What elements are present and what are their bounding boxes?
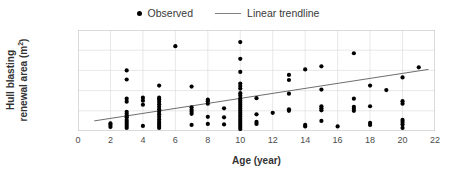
data-point [157,96,161,100]
data-point [222,106,226,110]
x-tick-label: 2 [95,135,125,145]
data-point [319,104,323,108]
data-point [319,87,323,91]
x-tick-label: 14 [290,135,320,145]
x-tick-label: 6 [160,135,190,145]
data-point [222,115,226,119]
x-axis-title: Age (year) [78,155,435,166]
legend-label-trendline: Linear trendline [247,8,319,19]
data-point [352,105,356,109]
data-point [189,84,193,88]
data-point [287,107,291,111]
legend-entry-observed: Observed [137,8,194,19]
chart-legend: Observed Linear trendline [0,4,456,22]
data-point [125,77,129,81]
y-axis-title: Hull blasting renewal area (m2) [0,25,70,135]
data-point [108,121,112,125]
data-point [254,96,258,100]
x-tick-label: 8 [193,135,223,145]
data-point [287,78,291,82]
data-point [206,122,210,126]
data-point [238,91,242,95]
data-point [206,115,210,119]
data-point [352,51,356,55]
legend-label-observed: Observed [148,8,194,19]
trendline-marker-icon [215,13,241,14]
y-axis-title-superscript: 2 [17,42,24,46]
data-point [384,88,388,92]
data-point [125,97,129,101]
data-point [368,83,372,87]
data-point [400,75,404,79]
data-point [368,104,372,108]
data-point [238,57,242,61]
x-tick-label: 22 [420,135,450,145]
data-point [141,96,145,100]
data-point [287,73,291,77]
y-axis-title-line2: renewal area (m [19,46,30,122]
data-point [157,83,161,87]
data-point [189,123,193,127]
data-point [400,99,404,103]
x-tick-label: 12 [258,135,288,145]
x-tick-label: 4 [128,135,158,145]
data-point [238,81,242,85]
data-point [125,68,129,72]
data-point [271,111,275,115]
data-point [368,121,372,125]
data-point [336,124,340,128]
y-axis-title-line1: Hull blasting [5,50,16,110]
scatter-chart: Observed Linear trendline Hull blasting … [0,0,456,175]
data-point [141,103,145,107]
data-point [400,118,404,122]
x-tick-label: 16 [323,135,353,145]
data-point [238,70,242,74]
x-tick-label: 0 [63,135,93,145]
data-point [319,119,323,123]
plot-area [78,30,435,131]
data-point [125,110,129,114]
data-point [189,105,193,109]
data-point [303,123,307,127]
data-point [303,67,307,71]
legend-entry-trendline: Linear trendline [215,8,319,19]
x-tick-label: 10 [225,135,255,145]
data-point [287,92,291,96]
observed-marker-icon [137,11,142,16]
linear-trendline [94,69,428,121]
data-point [352,97,356,101]
y-axis-title-tail: ) [19,39,30,42]
data-point [417,65,421,69]
plot-svg [78,30,435,131]
data-point [173,44,177,48]
data-point [238,40,242,44]
data-point [141,124,145,128]
data-point [254,120,258,124]
observed-points [108,40,421,131]
data-point [319,64,323,68]
data-point [254,112,258,116]
x-tick-label: 20 [388,135,418,145]
data-point [206,98,210,102]
x-tick-label: 18 [355,135,385,145]
data-point [222,122,226,126]
